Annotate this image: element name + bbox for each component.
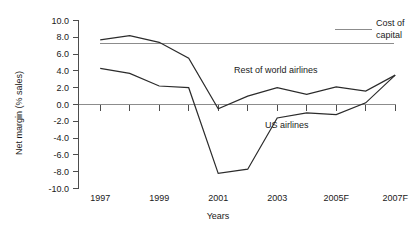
- y-tick-label-neg10: -10.0: [48, 184, 69, 194]
- x-tick-label-2007F: 2007F: [382, 193, 408, 203]
- y-tick-label-neg6: -6.0: [53, 150, 69, 160]
- net-margin-chart: 10.0 8.0 6.0 4.0 2.0 0.0 -2.0 -4.0 -6.0 …: [0, 0, 419, 230]
- x-axis-title: Years: [207, 211, 230, 221]
- y-tick-label-8: 8.0: [56, 32, 69, 42]
- chart-svg: 10.0 8.0 6.0 4.0 2.0 0.0 -2.0 -4.0 -6.0 …: [0, 0, 419, 230]
- y-tick-label-4: 4.0: [56, 66, 69, 76]
- y-tick-label-6: 6.0: [56, 49, 69, 59]
- cost-of-capital-label-line2: capital: [376, 30, 402, 40]
- y-tick-label-neg2: -2.0: [53, 116, 69, 126]
- y-tick-label-neg4: -4.0: [53, 133, 69, 143]
- us-airlines-label: US airlines: [265, 120, 309, 130]
- y-axis-ticks: [73, 21, 79, 189]
- us-airlines-line: [100, 68, 395, 173]
- y-tick-label-0: 0.0: [56, 100, 69, 110]
- x-axis-ticks: [100, 105, 395, 112]
- x-tick-label-2003: 2003: [267, 193, 287, 203]
- y-tick-label-neg8: -8.0: [53, 167, 69, 177]
- x-tick-label-1999: 1999: [149, 193, 169, 203]
- x-tick-label-2001: 2001: [208, 193, 228, 203]
- y-tick-label-10: 10.0: [51, 16, 69, 26]
- x-tick-label-1997: 1997: [90, 193, 110, 203]
- cost-of-capital-label-line1: Cost of: [376, 18, 405, 28]
- y-tick-label-2: 2.0: [56, 83, 69, 93]
- x-tick-label-2005F: 2005F: [323, 193, 349, 203]
- rest-of-world-airlines-label: Rest of world airlines: [234, 65, 318, 75]
- y-axis-title: Net margin (% sales): [14, 71, 24, 155]
